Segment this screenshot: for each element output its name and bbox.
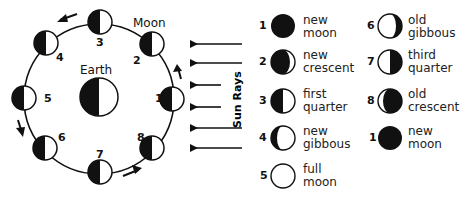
full-moon-icon bbox=[271, 164, 295, 188]
orbit-moon-icon bbox=[88, 10, 112, 34]
legend-num: 1 bbox=[369, 131, 377, 144]
orbit-position-number: 4 bbox=[56, 51, 64, 64]
waning-gibbous-icon bbox=[378, 14, 402, 38]
legend-label: thirdquarter bbox=[408, 49, 453, 75]
earth-label: Earth bbox=[80, 63, 112, 77]
orbit-moon-icon bbox=[140, 32, 164, 56]
legend-num: 7 bbox=[367, 55, 375, 68]
orbit-position-number: 6 bbox=[58, 131, 66, 144]
orbit-position-number: 3 bbox=[96, 36, 104, 49]
waning-crescent-icon bbox=[378, 89, 402, 113]
arrow-icon bbox=[173, 64, 182, 72]
orbit-moon-icon bbox=[34, 31, 58, 55]
legend-num: 6 bbox=[367, 19, 375, 32]
first-quarter-icon bbox=[271, 89, 295, 113]
legend-label: fullmoon bbox=[303, 163, 337, 189]
orbit-position-number: 2 bbox=[133, 54, 141, 67]
moon-phases-diagram: Earth Moon Sun Rays 12345678 1 newmoon 2… bbox=[0, 0, 466, 200]
legend-label: oldgibbous bbox=[408, 14, 455, 40]
legend-label: oldcrescent bbox=[408, 88, 459, 114]
moon-label: Moon bbox=[133, 16, 166, 30]
legend-num: 4 bbox=[259, 131, 267, 144]
orbit-position-number: 8 bbox=[137, 131, 145, 144]
arrow-icon bbox=[16, 127, 25, 137]
waxing-gibbous-icon bbox=[271, 126, 295, 150]
legend-num: 5 bbox=[260, 169, 268, 182]
third-quarter-icon bbox=[378, 50, 402, 74]
orbit-position-number: 1 bbox=[155, 92, 163, 105]
legend-label: newgibbous bbox=[303, 125, 350, 151]
new-moon-icon bbox=[378, 126, 402, 150]
orbit-moon-icon bbox=[160, 87, 184, 111]
orbit-position-number: 7 bbox=[96, 148, 104, 161]
legend-num: 2 bbox=[259, 55, 267, 68]
orbit-position-number: 5 bbox=[44, 92, 52, 105]
legend-label: firstquarter bbox=[303, 88, 348, 114]
orbit-moon-icon bbox=[33, 136, 57, 160]
legend-num: 8 bbox=[367, 94, 375, 107]
orbit-moon-icon bbox=[12, 86, 36, 110]
arrow-icon bbox=[57, 14, 68, 22]
legend-num: 1 bbox=[259, 19, 267, 32]
new-moon-icon bbox=[271, 14, 295, 38]
orbit-moon-icon bbox=[88, 160, 112, 184]
sun-rays-label: Sun Rays bbox=[231, 71, 244, 128]
earth-icon bbox=[80, 78, 118, 116]
legend-num: 3 bbox=[259, 94, 267, 107]
legend-label: newmoon bbox=[303, 14, 337, 40]
legend-label: newcrescent bbox=[303, 49, 354, 75]
waxing-crescent-icon bbox=[271, 50, 295, 74]
legend-label: newmoon bbox=[408, 125, 442, 151]
